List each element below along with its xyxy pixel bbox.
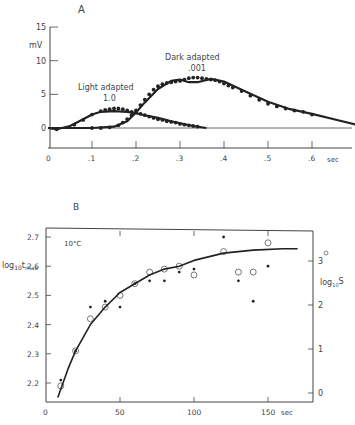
data-point-a xyxy=(231,86,235,90)
y-tick-label-right-b: 3 xyxy=(318,257,323,266)
data-point-a xyxy=(196,76,200,80)
data-point-a xyxy=(130,110,134,114)
data-point-a xyxy=(121,107,125,111)
data-point-a xyxy=(152,88,156,92)
x-tick-label-a: .1 xyxy=(88,154,95,163)
data-point-a xyxy=(240,89,244,93)
dark-adapted-value: .001 xyxy=(188,64,206,73)
y-axis-label-right: log10S xyxy=(320,251,344,288)
data-point-a xyxy=(275,105,279,109)
filled-dot-point xyxy=(104,300,107,303)
data-point-a xyxy=(139,103,143,107)
y-tick-label-left-b: 2.7 xyxy=(27,233,39,242)
open-circle-point xyxy=(235,269,241,275)
data-point-a xyxy=(178,79,182,83)
data-point-a xyxy=(174,121,178,125)
dark-adapted-label: Dark adapted xyxy=(165,53,220,62)
x-tick-label-b: 150 xyxy=(261,408,276,417)
x-tick-label-a: .2 xyxy=(132,154,139,163)
x-tick-label-a: .5 xyxy=(264,154,271,163)
data-point-a xyxy=(130,113,134,117)
data-point-a xyxy=(310,113,314,117)
data-point-a xyxy=(139,112,143,116)
data-point-a xyxy=(249,94,253,98)
data-point-a xyxy=(187,123,191,127)
data-point-a xyxy=(165,119,169,123)
y-tick-label-a: 10 xyxy=(36,57,46,66)
filled-dot-point xyxy=(267,265,270,268)
filled-dot-point xyxy=(163,279,166,282)
data-point-a xyxy=(218,80,222,84)
data-point-a xyxy=(125,109,129,113)
filled-dot-point xyxy=(222,236,225,239)
data-point-a xyxy=(117,123,121,127)
data-point-a xyxy=(205,77,209,81)
x-axis-unit-sec-b: sec xyxy=(281,409,293,417)
x-tick-label-b: 0 xyxy=(43,408,48,417)
data-point-a xyxy=(103,108,107,112)
data-point-a xyxy=(108,107,112,111)
y-axis-unit-mv: mV xyxy=(29,41,43,50)
open-circle-point xyxy=(191,272,197,278)
figure: A mV Light adapted 1.0 Dark adapted .001… xyxy=(0,0,355,425)
data-point-a xyxy=(227,84,231,88)
data-point-a xyxy=(169,120,173,124)
filled-dot-point xyxy=(178,271,181,274)
filled-dot-point xyxy=(59,379,62,382)
data-point-a xyxy=(183,78,187,82)
open-circle-point xyxy=(265,240,271,246)
data-point-a xyxy=(90,126,94,130)
panel-a-chart: 0510150.1.2.3.4.5.6 xyxy=(36,23,355,163)
data-point-a xyxy=(152,116,156,120)
data-point-a xyxy=(284,107,288,111)
data-point-a xyxy=(117,107,121,111)
x-tick-label-a: .4 xyxy=(220,154,227,163)
light-adapted-label: Light adapted xyxy=(78,83,134,92)
data-point-a xyxy=(108,125,112,129)
data-point-a xyxy=(200,76,204,80)
filled-dot-point xyxy=(148,279,151,282)
data-point-a xyxy=(266,102,270,106)
data-point-a xyxy=(191,124,195,128)
data-point-a xyxy=(191,76,195,80)
x-tick-label-a: .3 xyxy=(176,154,183,163)
y-tick-label-left-b: 2.5 xyxy=(27,291,39,300)
data-point-a xyxy=(165,81,169,85)
data-point-a xyxy=(99,109,103,113)
data-point-a xyxy=(143,98,147,102)
y-tick-label-left-b: 2.4 xyxy=(27,321,39,330)
x-tick-label-a: 0 xyxy=(46,154,51,163)
y-tick-label-a: 0 xyxy=(41,124,46,133)
y-tick-label-a: 5 xyxy=(41,90,46,99)
data-point-a xyxy=(121,121,125,125)
y-tick-label-left-b: 2.6 xyxy=(27,262,39,271)
top-border-b xyxy=(46,228,313,231)
data-point-a xyxy=(90,113,94,117)
filled-dot-point xyxy=(89,306,92,309)
data-point-a xyxy=(209,78,213,82)
data-point-a xyxy=(156,117,160,121)
data-point-a xyxy=(183,123,187,127)
x-tick-label-b: 100 xyxy=(187,408,202,417)
x-tick-label-a: .6 xyxy=(308,154,315,163)
data-point-a xyxy=(112,107,116,111)
data-point-a xyxy=(161,118,165,122)
temperature-annotation: 10°C xyxy=(64,240,81,248)
data-point-a xyxy=(99,126,103,130)
data-point-a xyxy=(293,109,297,113)
open-circle-point xyxy=(250,269,256,275)
data-point-a xyxy=(73,123,77,127)
filled-dot-point xyxy=(252,300,255,303)
svg-text:log10S: log10S xyxy=(320,277,344,288)
filled-dot-point xyxy=(193,268,196,271)
data-point-a xyxy=(147,115,151,119)
light-adapted-value: 1.0 xyxy=(103,94,116,103)
x-tick-label-b: 50 xyxy=(115,408,125,417)
data-point-a xyxy=(156,84,160,88)
x-axis-unit-sec-a: sec xyxy=(327,156,339,164)
data-point-a xyxy=(301,110,305,114)
data-point-a xyxy=(257,98,261,102)
filled-dot-point xyxy=(119,306,122,309)
panel-b-chart: 2.22.32.42.52.62.70123050100150 xyxy=(27,228,323,417)
data-point-a xyxy=(143,113,147,117)
